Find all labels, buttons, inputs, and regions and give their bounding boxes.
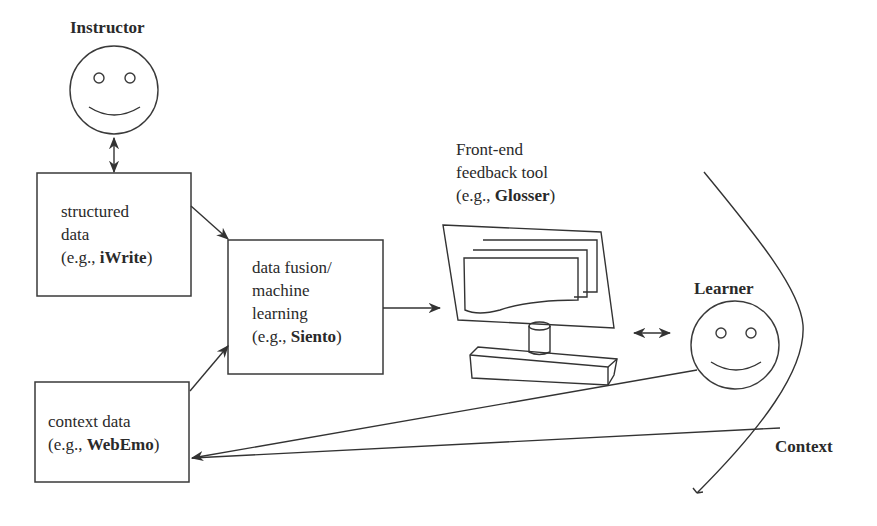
example-suffix: ) bbox=[154, 435, 160, 454]
example-suffix: ) bbox=[550, 186, 556, 205]
webemo-name: WebEmo bbox=[87, 435, 154, 454]
instructor-face-icon bbox=[70, 46, 158, 134]
structured-line-1: structured bbox=[61, 200, 152, 223]
learner-face-icon bbox=[691, 301, 779, 389]
context-example: (e.g., WebEmo) bbox=[48, 433, 159, 456]
example-suffix: ) bbox=[147, 248, 153, 267]
example-prefix: (e.g., bbox=[252, 327, 291, 346]
example-prefix: (e.g., bbox=[456, 186, 495, 205]
example-prefix: (e.g., bbox=[61, 248, 100, 267]
instructor-label: Instructor bbox=[70, 18, 145, 38]
fusion-example: (e.g., Siento) bbox=[252, 325, 342, 348]
fusion-line-3: learning bbox=[252, 302, 342, 325]
learner-label: Learner bbox=[694, 279, 753, 299]
structured-to-fusion-arrow bbox=[191, 206, 228, 239]
monitor-icon bbox=[443, 225, 617, 385]
structured-line-2: data bbox=[61, 223, 152, 246]
context-to-fusion-arrow bbox=[190, 346, 228, 391]
frontend-line-2: feedback tool bbox=[456, 161, 555, 184]
context-line-1: context data bbox=[48, 410, 159, 433]
siento-name: Siento bbox=[291, 327, 336, 346]
frontend-text: Front-end feedback tool (e.g., Glosser) bbox=[456, 138, 555, 207]
example-prefix: (e.g., bbox=[48, 435, 87, 454]
fusion-text: data fusion/ machine learning (e.g., Sie… bbox=[252, 256, 342, 348]
context-label: Context bbox=[775, 437, 833, 457]
iwrite-name: iWrite bbox=[100, 248, 147, 267]
example-suffix: ) bbox=[336, 327, 342, 346]
frontend-example: (e.g., Glosser) bbox=[456, 184, 555, 207]
context-data-text: context data (e.g., WebEmo) bbox=[48, 410, 159, 456]
glosser-name: Glosser bbox=[495, 186, 550, 205]
fusion-line-1: data fusion/ bbox=[252, 256, 342, 279]
structured-data-text: structured data (e.g., iWrite) bbox=[61, 200, 152, 269]
frontend-line-1: Front-end bbox=[456, 138, 555, 161]
structured-example: (e.g., iWrite) bbox=[61, 246, 152, 269]
fusion-line-2: machine bbox=[252, 279, 342, 302]
